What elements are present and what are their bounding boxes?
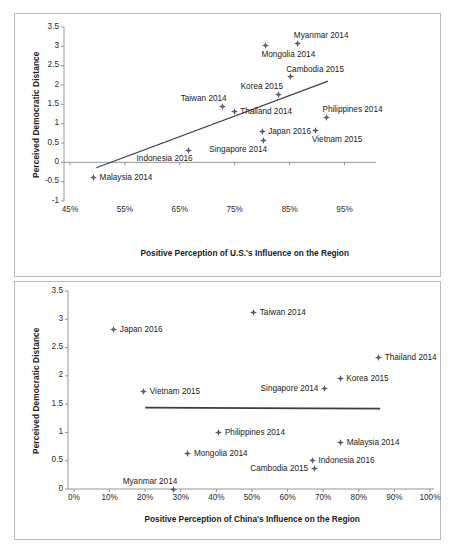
chart-panel-us-influence: 3.532.521.510.50-0.5-145%55%65%75%85%95%… [14, 13, 441, 277]
data-point-marker [321, 385, 328, 392]
data-point-label: Indonesia 2016 [137, 154, 193, 163]
data-point-marker [219, 103, 226, 110]
data-point-marker [260, 137, 267, 144]
data-point-marker [90, 174, 97, 181]
data-point-label: Japan 2016 [268, 127, 311, 136]
data-point-marker [375, 354, 382, 361]
data-point-marker [337, 375, 344, 382]
data-point-label: Myanmar 2014 [123, 477, 178, 486]
data-point-marker [275, 91, 282, 98]
data-point-marker [250, 309, 257, 316]
scatter-plot-us-influence: 3.532.521.510.50-0.5-145%55%65%75%85%95%… [15, 14, 440, 276]
x-axis-title: Positive Perception of China's Influence… [145, 514, 360, 524]
data-point-label: Myanmar 2014 [294, 31, 349, 40]
data-point-marker [262, 42, 269, 49]
data-point-marker [309, 457, 316, 464]
data-point-label: Cambodia 2015 [250, 464, 308, 473]
chart-panel-china-influence: 3.532.521.510.500%10%20%30%40%50%60%70%8… [14, 281, 441, 540]
data-point-marker [311, 465, 318, 472]
data-point-label: Korea 2015 [346, 374, 388, 383]
data-point-label: Mongolia 2014 [261, 50, 315, 59]
data-point-label: Indonesia 2016 [319, 456, 375, 465]
data-point-marker [294, 40, 301, 47]
data-point-marker [323, 114, 330, 121]
data-point-marker [140, 388, 147, 395]
data-point-label: Korea 2015 [241, 82, 283, 91]
scatter-plot-china-influence: 3.532.521.510.500%10%20%30%40%50%60%70%8… [15, 282, 440, 539]
data-point-label: Malaysia 2014 [347, 438, 400, 447]
data-point-label: Vietnam 2015 [312, 135, 362, 144]
trend-line [145, 408, 380, 409]
data-point-label: Philippines 2014 [322, 105, 382, 114]
data-point-marker [185, 147, 192, 154]
data-point-marker [287, 73, 294, 80]
data-point-label: Taiwan 2014 [181, 94, 227, 103]
data-point-label: Singapore 2014 [209, 145, 267, 154]
plot-canvas [15, 282, 442, 541]
data-point-marker [337, 439, 344, 446]
data-point-label: Cambodia 2015 [286, 65, 344, 74]
data-point-label: Taiwan 2014 [260, 308, 306, 317]
data-point-label: Singapore 2014 [261, 384, 319, 393]
data-point-marker [110, 326, 117, 333]
data-point-marker [312, 127, 319, 134]
data-point-label: Thailand 2014 [385, 353, 437, 362]
data-point-marker [215, 429, 222, 436]
data-point-label: Japan 2016 [120, 325, 163, 334]
data-point-label: Malaysia 2014 [100, 173, 153, 182]
data-point-label: Philippines 2014 [225, 428, 285, 437]
data-point-marker [231, 108, 238, 115]
data-point-label: Vietnam 2015 [150, 387, 200, 396]
y-axis-title: Perceived Democratic Distance [31, 327, 41, 454]
data-point-marker [170, 486, 177, 493]
x-axis-title: Positive Perception of U.S.'s Influence … [141, 248, 350, 258]
data-point-label: Thailand 2014 [240, 107, 292, 116]
data-point-marker [259, 128, 266, 135]
data-point-label: Mongolia 2014 [194, 449, 248, 458]
data-point-marker [184, 450, 191, 457]
y-axis-title: Perceived Democratic Distance [31, 51, 41, 178]
